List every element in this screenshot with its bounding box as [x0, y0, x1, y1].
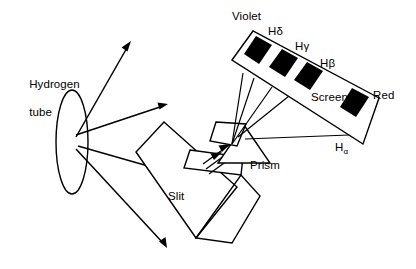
h-alpha-label-sub: α	[343, 147, 348, 156]
hydrogen-spectrum-diagram: Hydrogen tube Slit Prism Screen Violet R…	[0, 0, 416, 269]
h-delta-label: Hδ	[268, 24, 283, 38]
hydrogen-tube-label: Hydrogen tube	[16, 63, 80, 133]
ray-upper-diverging	[76, 41, 131, 137]
h-beta-label: Hβ	[320, 56, 335, 70]
hydrogen-tube-label-line1: Hydrogen	[29, 78, 80, 90]
h-gamma-label: Hγ	[295, 39, 309, 53]
screen-label: Screen	[311, 90, 348, 104]
slit-label: Slit	[168, 189, 184, 203]
h-alpha-label: Hα	[335, 140, 348, 154]
ray-to-slit-upper	[76, 103, 168, 136]
violet-end-label: Violet	[232, 9, 261, 23]
diagram-canvas	[0, 0, 416, 269]
hydrogen-tube-label-line2: tube	[29, 106, 52, 118]
red-end-label: Red	[373, 88, 394, 102]
prism-label: Prism	[250, 158, 280, 172]
